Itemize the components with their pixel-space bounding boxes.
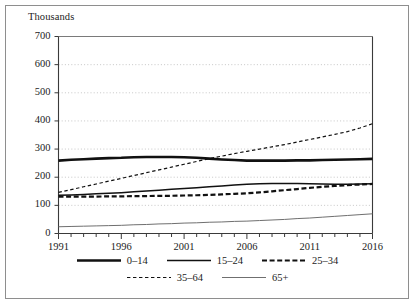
chart-figure: Thousands 0100200300400500600700 1991199…: [0, 0, 414, 304]
legend-label: 65+: [272, 272, 288, 283]
gridlines: [59, 37, 373, 206]
legend-swatch-line: [221, 272, 267, 283]
legend-label: 0–14: [127, 255, 148, 266]
legend-swatch-line: [261, 255, 307, 266]
legend-row: 35–6465+: [5, 269, 409, 286]
series-line-15-24: [59, 183, 373, 195]
legend-entry[interactable]: 15–24: [166, 255, 243, 266]
legend-swatch-line: [76, 255, 122, 266]
legend-swatch-line: [166, 255, 212, 266]
legend-label: 35–64: [177, 272, 203, 283]
legend-entry[interactable]: 0–14: [76, 255, 148, 266]
legend-label: 25–34: [312, 255, 338, 266]
axis-lines: [59, 37, 373, 234]
series-line-0-14: [59, 157, 373, 161]
data-series: [59, 124, 373, 227]
legend-swatch-line: [126, 272, 172, 283]
legend-entry[interactable]: 25–34: [261, 255, 338, 266]
chart-legend: 0–1415–2425–34 35–6465+: [5, 252, 409, 286]
legend-row: 0–1415–2425–34: [5, 252, 409, 269]
legend-entry[interactable]: 35–64: [126, 272, 203, 283]
tick-marks: [55, 37, 373, 240]
series-line-65: [59, 214, 373, 227]
legend-entry[interactable]: 65+: [221, 272, 288, 283]
legend-label: 15–24: [217, 255, 243, 266]
